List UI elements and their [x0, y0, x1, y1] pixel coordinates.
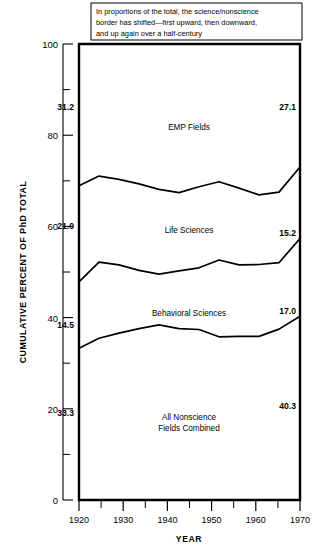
- y-axis-title: CUMULATIVE PERCENT OF PhD TOTAL: [18, 181, 28, 364]
- band-label-behavioral-sciences: Behavioral Sciences: [152, 309, 226, 318]
- y-tick-100: 100: [42, 39, 58, 50]
- x-tick-1920: 1920: [69, 515, 89, 525]
- caption-line-1: In proportions of the total, the science…: [96, 7, 259, 16]
- caption-line-3: and up again over a half-century: [96, 29, 202, 38]
- endpoint-label-life-start: 21.0: [57, 221, 74, 231]
- caption-line-2: border has shifted—first upward, then do…: [96, 18, 257, 27]
- x-tick-1930: 1930: [113, 515, 133, 525]
- x-tick-1960: 1960: [246, 515, 266, 525]
- y-tick-0: 0: [53, 495, 58, 506]
- chart-background: [0, 0, 322, 553]
- endpoint-label-emp-start: 31.2: [57, 102, 74, 112]
- endpoint-label-emp-end: 27.1: [279, 102, 296, 112]
- endpoint-label-behavioral-end: 17.0: [279, 306, 296, 316]
- band-label-emp-fields: EMP Fields: [168, 123, 210, 132]
- x-tick-1970: 1970: [290, 515, 310, 525]
- x-axis-title: YEAR: [176, 534, 202, 544]
- band-label-nonscience-line-2: Fields Combined: [158, 424, 220, 433]
- x-tick-1950: 1950: [202, 515, 222, 525]
- endpoint-label-nonscience-end: 40.3: [279, 401, 296, 411]
- caption-box: In proportions of the total, the science…: [91, 3, 302, 40]
- band-label-life-sciences: Life Sciences: [165, 226, 214, 235]
- endpoint-label-behavioral-start: 14.5: [57, 320, 74, 330]
- endpoint-label-life-end: 15.2: [279, 228, 296, 238]
- y-tick-80: 80: [47, 130, 58, 141]
- x-tick-1940: 1940: [157, 515, 177, 525]
- chart-figure: In proportions of the total, the science…: [0, 0, 322, 553]
- band-label-nonscience-line-1: All Nonscience: [162, 413, 217, 422]
- endpoint-label-nonscience-start: 33.3: [57, 408, 74, 418]
